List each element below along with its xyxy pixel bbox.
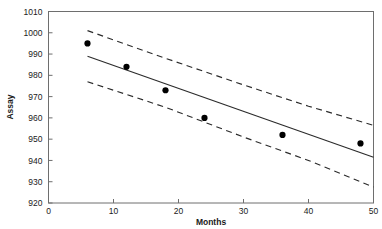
x-tick-label: 40 bbox=[304, 206, 314, 216]
y-tick-label: 940 bbox=[28, 156, 42, 166]
assay-vs-months-scatter-plot: 92093094095096097098099010001010 0102030… bbox=[0, 0, 382, 229]
y-tick-label: 920 bbox=[28, 198, 42, 208]
data-point bbox=[162, 87, 168, 93]
plot-background bbox=[0, 0, 382, 229]
y-tick-label: 980 bbox=[28, 70, 42, 80]
data-point bbox=[84, 40, 90, 46]
data-point bbox=[123, 64, 129, 70]
chart-canvas: 92093094095096097098099010001010 0102030… bbox=[0, 0, 382, 229]
data-point bbox=[201, 115, 207, 121]
x-tick-label: 10 bbox=[109, 206, 119, 216]
x-tick-label: 50 bbox=[369, 206, 379, 216]
data-point bbox=[357, 140, 363, 146]
x-axis-title: Months bbox=[196, 217, 226, 227]
y-tick-label: 960 bbox=[28, 113, 42, 123]
y-tick-label: 930 bbox=[28, 177, 42, 187]
x-tick-label: 0 bbox=[46, 206, 51, 216]
y-tick-label: 1010 bbox=[24, 7, 43, 17]
y-tick-label: 950 bbox=[28, 134, 42, 144]
y-axis-title: Assay bbox=[5, 94, 15, 119]
data-point bbox=[279, 132, 285, 138]
x-tick-label: 20 bbox=[174, 206, 184, 216]
y-tick-label: 1000 bbox=[24, 28, 43, 38]
x-tick-label: 30 bbox=[239, 206, 249, 216]
y-tick-label: 990 bbox=[28, 49, 42, 59]
y-tick-label: 970 bbox=[28, 92, 42, 102]
